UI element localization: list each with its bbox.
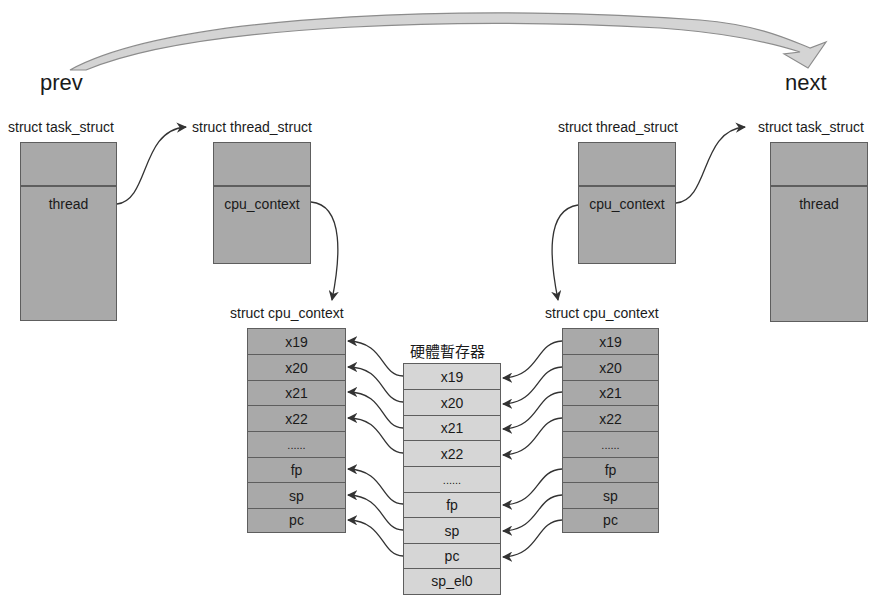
register-cell: x20 xyxy=(563,355,658,381)
hw-register-cell: sp_el0 xyxy=(404,569,500,593)
struct-cell xyxy=(771,143,867,186)
right-thread-struct-box: cpu_context xyxy=(578,142,676,264)
next-label: next xyxy=(785,70,827,96)
hardware-registers-box: x19 x20 x21 x22 ...... fp sp pc sp_el0 xyxy=(403,363,501,595)
register-cell: fp xyxy=(563,458,658,483)
register-cell: sp xyxy=(563,483,658,509)
right-thread-struct-title: struct thread_struct xyxy=(558,119,678,135)
register-cell: ...... xyxy=(563,432,658,458)
register-cell: x22 xyxy=(248,406,345,432)
register-cell: sp xyxy=(248,483,345,509)
right-cpu-context-box: x19 x20 x21 x22 ...... fp sp pc xyxy=(562,328,659,533)
register-cell: pc xyxy=(563,509,658,531)
cpu-context-field: cpu_context xyxy=(214,186,310,221)
thread-field: thread xyxy=(771,186,867,221)
struct-cell xyxy=(214,143,310,186)
register-cell: x19 xyxy=(563,329,658,355)
left-task-struct-title: struct task_struct xyxy=(8,119,114,135)
right-task-struct-box: thread xyxy=(770,142,868,322)
register-cell: x21 xyxy=(248,381,345,406)
thread-field: thread xyxy=(21,186,116,221)
hardware-registers-title: 硬體暫存器 xyxy=(410,340,485,361)
hw-register-cell: ...... xyxy=(404,467,500,493)
left-cpu-context-box: x19 x20 x21 x22 ...... fp sp pc xyxy=(247,328,346,533)
register-cell: fp xyxy=(248,458,345,483)
right-task-struct-title: struct task_struct xyxy=(758,119,864,135)
struct-cell xyxy=(579,143,675,186)
hw-register-cell: x21 xyxy=(404,416,500,441)
hw-register-cell: sp xyxy=(404,518,500,544)
hw-register-cell: x20 xyxy=(404,390,500,416)
register-cell: x22 xyxy=(563,406,658,432)
left-cpu-context-title: struct cpu_context xyxy=(230,305,344,321)
hw-register-cell: x19 xyxy=(404,364,500,390)
prev-label: prev xyxy=(40,70,83,96)
left-thread-struct-title: struct thread_struct xyxy=(192,119,312,135)
left-task-struct-box: thread xyxy=(20,142,117,321)
cpu-context-field: cpu_context xyxy=(579,186,675,221)
hw-register-cell: x22 xyxy=(404,441,500,467)
register-cell: pc xyxy=(248,509,345,531)
struct-cell xyxy=(21,143,116,186)
register-cell: x20 xyxy=(248,355,345,381)
hw-register-cell: fp xyxy=(404,493,500,518)
left-thread-struct-box: cpu_context xyxy=(213,142,311,264)
register-cell: x19 xyxy=(248,329,345,355)
register-cell: x21 xyxy=(563,381,658,406)
register-cell: ...... xyxy=(248,432,345,458)
right-cpu-context-title: struct cpu_context xyxy=(545,305,659,321)
hw-register-cell: pc xyxy=(404,544,500,569)
